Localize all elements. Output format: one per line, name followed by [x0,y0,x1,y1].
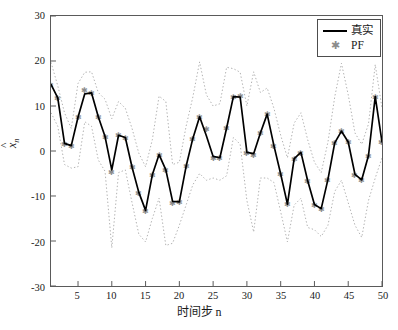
legend-label-true: 真实 [348,23,373,38]
legend-line-swatch [322,23,348,38]
y-tick-label: 30 [10,10,45,21]
pf-marker-group: ✱✱✱✱✱✱✱✱✱✱✱✱✱✱✱✱✱✱✱✱✱✱✱✱✱✱✱✱✱✱✱✱✱✱✱✱✱✱✱✱… [51,81,382,216]
chart-figure: ✱✱✱✱✱✱✱✱✱✱✱✱✱✱✱✱✱✱✱✱✱✱✱✱✱✱✱✱✱✱✱✱✱✱✱✱✱✱✱✱… [0,0,398,330]
x-tick-marks [78,281,382,286]
y-tick-label: -20 [10,236,45,247]
y-axis-title: ^xn [5,128,21,158]
x-tick-label: 45 [344,290,355,301]
plot-area: ✱✱✱✱✱✱✱✱✱✱✱✱✱✱✱✱✱✱✱✱✱✱✱✱✱✱✱✱✱✱✱✱✱✱✱✱✱✱✱✱… [50,15,383,287]
y-tick-label: -10 [10,191,45,202]
x-tick-label: 15 [140,290,151,301]
x-tick-label: 25 [208,290,219,301]
x-tick-label: 35 [276,290,287,301]
x-axis-title: 时间步 n [0,302,398,320]
x-tick-label: 50 [378,290,389,301]
chart-legend[interactable]: 真实 ✱ PF [317,19,381,57]
y-tick-label: -30 [10,282,45,293]
legend-star-swatch: ✱ [322,38,348,53]
x-tick-label: 40 [310,290,321,301]
y-tick-label: 20 [10,55,45,66]
y-tick-label: 10 [10,100,45,111]
legend-entry-true[interactable]: 真实 [322,23,373,38]
x-tick-label: 10 [106,290,117,301]
legend-label-pf: PF [348,38,364,53]
y-tick-marks [51,16,56,286]
x-tick-label: 20 [174,290,185,301]
x-tick-label: 5 [75,290,80,301]
legend-entry-pf[interactable]: ✱ PF [322,38,373,53]
x-tick-label: 30 [242,290,253,301]
